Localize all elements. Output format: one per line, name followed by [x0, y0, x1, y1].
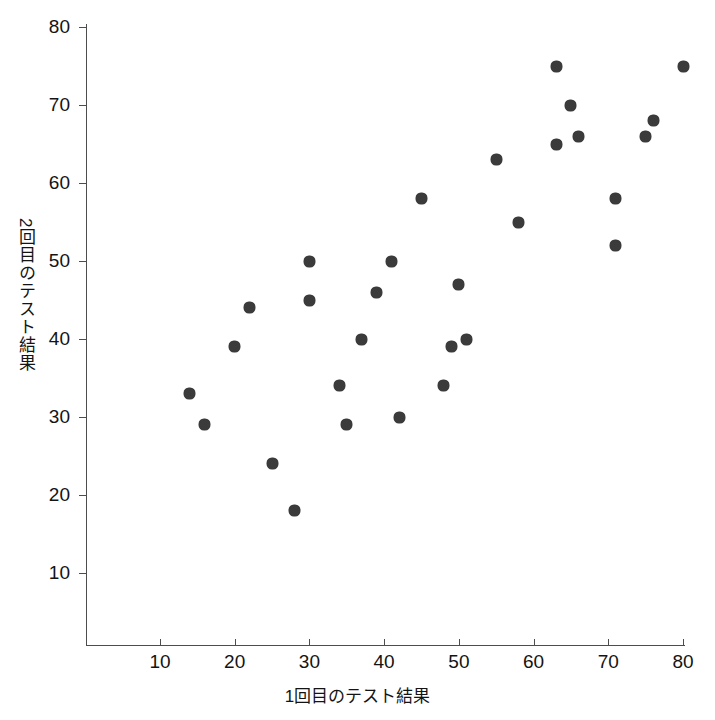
y-tick-70 [79, 105, 87, 106]
y-tick-label-80: 80 [10, 17, 70, 36]
data-point [304, 256, 315, 267]
data-point [551, 139, 562, 150]
data-point [394, 412, 405, 423]
data-point [267, 458, 278, 469]
x-tick-60 [534, 639, 535, 646]
x-tick-70 [608, 639, 609, 646]
x-tick-label-80: 80 [653, 652, 713, 671]
data-point [244, 302, 255, 313]
y-tick-label-10: 10 [10, 563, 70, 582]
data-point [229, 341, 240, 352]
data-point [565, 100, 576, 111]
y-tick-10 [79, 573, 87, 574]
y-tick-50 [79, 261, 87, 262]
x-tick-20 [235, 639, 236, 646]
data-point [648, 115, 659, 126]
data-point [371, 287, 382, 298]
data-point [341, 419, 352, 430]
y-tick-80 [79, 27, 87, 28]
x-tick-label-60: 60 [504, 652, 564, 671]
data-point [184, 388, 195, 399]
x-tick-40 [384, 639, 385, 646]
y-tick-30 [79, 417, 87, 418]
x-axis-title: 1回目のテスト結果 [0, 682, 715, 707]
data-point [461, 334, 472, 345]
data-point [678, 61, 689, 72]
data-point [199, 419, 210, 430]
y-tick-20 [79, 495, 87, 496]
y-tick-label-20: 20 [10, 485, 70, 504]
data-point [610, 193, 621, 204]
x-tick-10 [160, 639, 161, 646]
data-point [491, 154, 502, 165]
y-tick-label-60: 60 [10, 173, 70, 192]
x-tick-label-40: 40 [354, 652, 414, 671]
x-axis-line [86, 645, 685, 646]
data-point [438, 380, 449, 391]
data-point [446, 341, 457, 352]
data-point [610, 240, 621, 251]
y-axis-title: 2回目のテスト結果 [14, 218, 36, 372]
y-tick-label-70: 70 [10, 95, 70, 114]
data-point [640, 131, 651, 142]
x-tick-label-70: 70 [578, 652, 638, 671]
scatter-chart-figure: 1020304050607080 1020304050607080 2回目のテス… [0, 0, 715, 720]
data-point [551, 61, 562, 72]
data-point [416, 193, 427, 204]
y-tick-label-30: 30 [10, 407, 70, 426]
x-tick-30 [309, 639, 310, 646]
x-tick-80 [683, 639, 684, 646]
data-point [573, 131, 584, 142]
x-tick-label-30: 30 [279, 652, 339, 671]
data-point [304, 295, 315, 306]
x-tick-label-20: 20 [205, 652, 265, 671]
x-tick-label-10: 10 [130, 652, 190, 671]
data-point [356, 334, 367, 345]
data-point [289, 505, 300, 516]
data-point [334, 380, 345, 391]
data-point [453, 279, 464, 290]
x-tick-label-50: 50 [429, 652, 489, 671]
y-axis-line [86, 24, 87, 646]
y-tick-60 [79, 183, 87, 184]
data-point [386, 256, 397, 267]
data-point [513, 217, 524, 228]
x-tick-50 [459, 639, 460, 646]
y-tick-40 [79, 339, 87, 340]
